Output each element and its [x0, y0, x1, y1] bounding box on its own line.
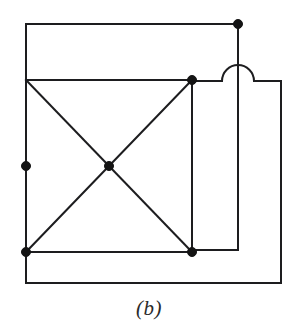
edge-corner-vertical-run — [192, 24, 238, 250]
node-top-right[interactable] — [188, 248, 197, 257]
figure-caption: (b) — [0, 296, 298, 321]
edge-group — [26, 24, 281, 283]
graph-diagram — [0, 0, 298, 336]
node-bottom-left[interactable] — [105, 162, 114, 171]
edge-outer-top-loop — [26, 24, 238, 80]
node-top-left[interactable] — [22, 162, 31, 171]
wire-crossover-hop-arc — [192, 65, 254, 81]
crossover-hop-group — [192, 65, 254, 81]
figure-container: (b) — [0, 0, 298, 336]
node-center[interactable] — [188, 76, 197, 85]
node-mid-left[interactable] — [22, 248, 31, 257]
node-bottom-right[interactable] — [234, 20, 243, 29]
